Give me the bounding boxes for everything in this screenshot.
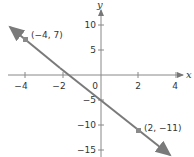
svg-text:5: 5 xyxy=(90,45,96,55)
svg-text:2: 2 xyxy=(135,81,141,91)
point-label-2: (2, −11) xyxy=(144,123,181,133)
point-label-1: (−4, 7) xyxy=(31,30,63,40)
chart-canvas: x y −4 −2 2 4 0 10 5 −5 −10 −15 (−4, 7) … xyxy=(0,0,194,157)
svg-text:4: 4 xyxy=(172,81,178,91)
y-axis-label: y xyxy=(96,0,103,10)
svg-text:−5: −5 xyxy=(83,95,96,105)
svg-text:−10: −10 xyxy=(77,120,96,130)
point-marker-2 xyxy=(136,128,141,133)
svg-text:−15: −15 xyxy=(77,145,96,155)
svg-text:−4: −4 xyxy=(14,81,28,91)
svg-text:−2: −2 xyxy=(52,81,65,91)
point-marker-1 xyxy=(23,37,28,42)
svg-text:10: 10 xyxy=(85,20,97,30)
svg-text:0: 0 xyxy=(92,81,98,91)
x-axis-label: x xyxy=(186,69,192,80)
y-ticks: 10 5 −5 −10 −15 xyxy=(77,20,104,155)
